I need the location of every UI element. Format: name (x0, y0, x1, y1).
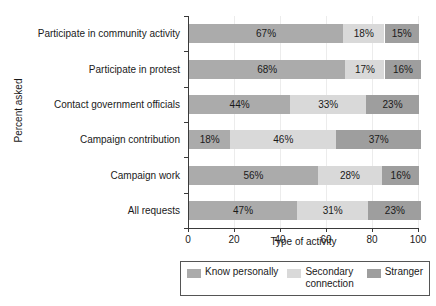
bar-segment: 23% (366, 95, 419, 114)
y-axis-category-label: Participate in community activity (38, 24, 180, 43)
bar-segment: 46% (230, 130, 336, 149)
legend-item[interactable]: Stranger (367, 266, 423, 278)
bar-segment: 28% (318, 166, 382, 185)
bar-segment: 18% (189, 130, 230, 149)
bar-segment: 31% (297, 201, 368, 220)
gridline (372, 16, 373, 228)
legend-swatch-icon (187, 269, 201, 278)
bar-segment: 67% (189, 24, 343, 43)
legend-label: Know personally (205, 266, 278, 278)
y-axis-category-label: All requests (128, 201, 180, 220)
bar-segment: 16% (382, 166, 419, 185)
gridline (280, 16, 281, 228)
y-axis-category-label: Participate in protest (89, 60, 180, 79)
x-axis-line (188, 228, 419, 229)
y-axis-tick (184, 16, 189, 17)
bar-segment: 15% (385, 24, 420, 43)
plot-area: Participate in community activity67%18%1… (188, 16, 418, 228)
bar-segment: 23% (368, 201, 421, 220)
y-axis-tick (184, 193, 189, 194)
bar-row: Participate in protest68%17%16% (189, 60, 419, 79)
chart-legend: Know personallySecondary connectionStran… (180, 261, 430, 296)
bar-segment: 47% (189, 201, 297, 220)
bar-segment: 56% (189, 166, 318, 185)
legend-item[interactable]: Know personally (187, 266, 278, 278)
y-axis-tick (184, 157, 189, 158)
legend-swatch-icon (367, 269, 381, 278)
legend-label: Stranger (385, 266, 423, 278)
y-axis-title: Percent asked (13, 46, 24, 176)
legend-item[interactable]: Secondary connection (287, 266, 357, 290)
bar-segment: 17% (345, 60, 384, 79)
legend-label: Secondary connection (305, 266, 357, 290)
y-axis-category-label: Campaign contribution (80, 130, 180, 149)
bar-row: Participate in community activity67%18%1… (189, 24, 419, 43)
bar-row: Contact government officials44%33%23% (189, 95, 419, 114)
y-axis-category-label: Campaign work (111, 166, 180, 185)
bar-row: Campaign contribution18%46%37% (189, 130, 419, 149)
gridline (326, 16, 327, 228)
x-axis-tick (326, 228, 327, 232)
gridline (234, 16, 235, 228)
bar-segment: 16% (385, 60, 422, 79)
x-axis-tick (280, 228, 281, 232)
bar-segment: 68% (189, 60, 345, 79)
x-axis-title: Type of activity (188, 236, 419, 247)
bar-segment: 18% (343, 24, 384, 43)
x-axis-tick (372, 228, 373, 232)
y-axis-tick (184, 87, 189, 88)
gridline (418, 16, 419, 228)
bar-segment: 44% (189, 95, 290, 114)
x-axis-tick (188, 228, 189, 232)
y-axis-tick (184, 122, 189, 123)
y-axis-category-label: Contact government officials (54, 95, 180, 114)
bar-segment: 37% (336, 130, 421, 149)
x-axis-tick (234, 228, 235, 232)
chart-figure: Percent asked Participate in community a… (0, 0, 436, 306)
legend-swatch-icon (287, 269, 301, 278)
y-axis-tick (184, 51, 189, 52)
x-axis-tick (418, 228, 419, 232)
bar-segment: 33% (290, 95, 366, 114)
bar-row: Campaign work56%28%16% (189, 166, 419, 185)
bar-row: All requests47%31%23% (189, 201, 419, 220)
